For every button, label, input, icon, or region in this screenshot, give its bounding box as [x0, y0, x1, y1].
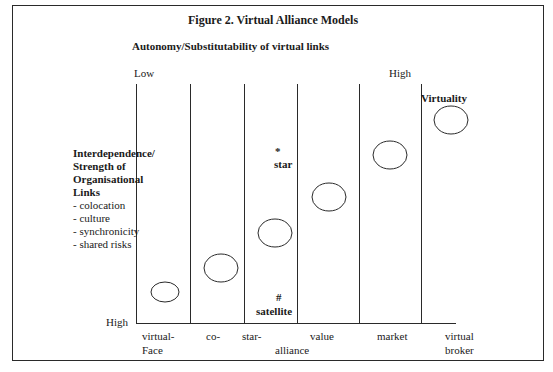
- y-axis-title-line: Strength of: [73, 160, 155, 173]
- column-divider: [244, 84, 245, 323]
- column-divider: [190, 84, 191, 323]
- category-label-line1: virtual: [445, 330, 474, 343]
- x-high-label: High: [389, 67, 411, 80]
- virtuality-label: Virtuality: [421, 92, 467, 105]
- category-label-line1: co-: [206, 330, 220, 343]
- y-axis-title-line: Links: [73, 186, 155, 199]
- y-axis-item: - synchronicity: [73, 225, 155, 238]
- column-divider: [421, 84, 422, 323]
- y-axis-item: - colocation: [73, 199, 155, 212]
- star-marker: *: [275, 145, 281, 158]
- x-axis-title: Autonomy/Substitutability of virtual lin…: [132, 40, 329, 53]
- y-axis-item: - shared risks: [73, 238, 155, 251]
- category-label-line1: star-: [242, 330, 261, 343]
- category-label-line2: alliance: [275, 344, 309, 357]
- category-label-line2: Face: [142, 344, 163, 357]
- satellite-marker: #: [276, 291, 282, 304]
- figure-title: Figure 2. Virtual Alliance Models: [188, 14, 358, 27]
- y-axis-item: - culture: [73, 212, 155, 225]
- y-axis-title-line: Interdependence/: [73, 147, 155, 160]
- x-low-label: Low: [134, 67, 154, 80]
- y-high-label: High: [106, 316, 128, 329]
- category-label-line1: virtual-: [142, 330, 174, 343]
- category-label-line1: market: [377, 330, 408, 343]
- baseline: [136, 323, 456, 324]
- column-divider: [297, 84, 298, 323]
- y-axis-label: Interdependence/ Strength of Organisatio…: [73, 147, 155, 251]
- star-label: star: [274, 158, 292, 171]
- y-axis-title-line: Organisational: [73, 173, 155, 186]
- category-label-line1: value: [310, 330, 334, 343]
- column-divider: [359, 84, 360, 323]
- satellite-label: satellite: [256, 305, 292, 318]
- category-label-line2: broker: [445, 344, 474, 357]
